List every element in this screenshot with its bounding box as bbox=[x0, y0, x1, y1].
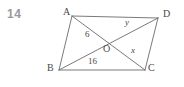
side-BA bbox=[59, 16, 72, 70]
figure-page: 14 A D B C O 6 16 y x bbox=[0, 0, 184, 87]
segment-label-16: 16 bbox=[88, 57, 97, 66]
side-AD bbox=[72, 16, 158, 18]
vertex-label-A: A bbox=[63, 7, 70, 17]
segment-label-6: 6 bbox=[85, 30, 90, 39]
segment-label-y: y bbox=[125, 18, 129, 27]
vertex-label-O: O bbox=[103, 44, 110, 54]
vertex-label-D: D bbox=[163, 9, 170, 19]
vertex-label-C: C bbox=[148, 63, 155, 73]
segment-label-x: x bbox=[131, 46, 135, 55]
vertex-label-B: B bbox=[47, 63, 54, 73]
parallelogram-diagram bbox=[0, 0, 184, 87]
